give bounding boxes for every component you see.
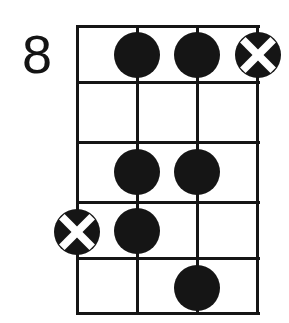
- cross-icon: [54, 209, 100, 255]
- finger-dot-marker-string2-fret1: [114, 32, 160, 78]
- chord-diagram: 8: [0, 0, 289, 323]
- mute-x-marker-string1-fret4: [54, 209, 100, 255]
- finger-dot-marker-string2-fret4: [114, 208, 160, 254]
- cross-icon: [235, 32, 281, 78]
- finger-dot-marker-string3-fret5: [174, 265, 220, 311]
- fret-line-1: [76, 81, 260, 84]
- finger-dot-marker-string3-fret1: [174, 32, 220, 78]
- fret-line-3: [76, 201, 260, 204]
- fret-line-4: [76, 257, 260, 260]
- fret-line-2: [76, 141, 260, 144]
- finger-dot-marker-string2-fret3: [114, 149, 160, 195]
- mute-x-marker-string4-fret1: [235, 32, 281, 78]
- fret-line-5: [76, 312, 260, 315]
- fretboard-grid: [0, 0, 289, 323]
- string-line-1: [76, 25, 79, 315]
- fret-line-0: [76, 25, 260, 28]
- finger-dot-marker-string3-fret3: [174, 149, 220, 195]
